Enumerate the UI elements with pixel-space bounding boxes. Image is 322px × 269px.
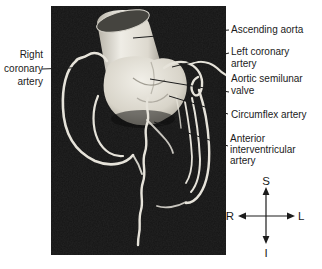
label-line: Aortic semilunar [231,73,303,85]
label-line: interventricular [230,144,296,155]
arrow-left-icon [238,213,246,220]
compass-axes [242,191,291,240]
figure: S R L I Right coronary artery Ascending … [0,0,322,269]
label-line: artery [231,58,289,70]
compass-superior-label: S [262,175,270,187]
compass-letters: S R L I [226,175,305,259]
compass-left-label: L [298,210,305,222]
label-ascending-aorta: Ascending aorta [231,24,303,36]
compass-right-label: R [226,210,234,222]
label-anterior-interventricular-artery: Anterior interventricular artery [230,133,296,166]
label-aortic-semilunar-valve: Aortic semilunar valve [231,73,303,97]
label-left-coronary-artery: Left coronary artery [231,46,289,70]
label-line: valve [231,85,303,97]
label-line: Anterior [230,133,296,144]
label-line: Left coronary [231,46,289,58]
label-line: Circumflex artery [231,109,307,121]
compass-arrowheads [238,187,295,244]
label-circumflex-artery: Circumflex artery [231,109,307,121]
label-line: Ascending aorta [231,24,303,36]
label-right-coronary-artery: Right coronary artery [0,48,43,89]
arrow-up-icon [263,187,270,195]
angiogram-panel [51,6,226,255]
arrow-down-icon [263,236,270,244]
label-line: artery [0,75,43,89]
label-line: coronary [0,62,43,76]
root-shadow [111,110,175,128]
arrow-right-icon [287,213,295,220]
orientation-compass: S R L I [226,175,305,259]
label-line: artery [230,155,296,166]
compass-inferior-label: I [264,247,267,259]
label-line: Right [0,48,43,62]
